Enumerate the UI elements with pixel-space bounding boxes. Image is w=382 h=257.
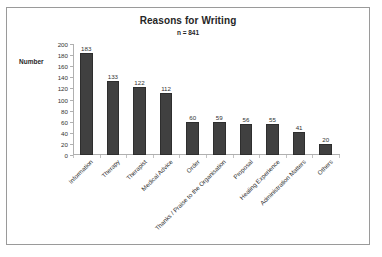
y-axis-tick-label: 120 <box>58 85 68 92</box>
x-axis-category-label-text: Others <box>316 158 334 176</box>
bar-value-label: 56 <box>242 116 249 123</box>
y-axis-tick-mark <box>70 66 73 67</box>
y-axis-tick-label: 160 <box>58 63 68 70</box>
chart-title: Reasons for Writing <box>7 15 369 26</box>
bar[interactable] <box>213 122 226 155</box>
bar-group[interactable]: 183 <box>80 44 93 155</box>
y-axis-tick-mark <box>70 77 73 78</box>
y-axis-tick-mark <box>70 55 73 56</box>
x-axis-category-label-text: Administration Matters <box>259 158 307 206</box>
bar-group[interactable]: 122 <box>133 44 146 155</box>
y-axis-tick-label: 20 <box>61 140 68 147</box>
chart-frame: Reasons for Writing n = 841 Number 20018… <box>6 7 370 245</box>
bar-group[interactable]: 59 <box>213 44 226 155</box>
y-axis-tick-label: 100 <box>58 96 68 103</box>
bar-value-label: 60 <box>189 114 196 121</box>
bar-value-label: 133 <box>108 73 118 80</box>
y-axis-tick-mark <box>70 100 73 101</box>
bar-value-label: 112 <box>161 85 171 92</box>
x-axis-category-label-text: Proposal <box>232 158 254 180</box>
y-axis-tick-mark <box>70 44 73 45</box>
bar-value-label: 59 <box>216 114 223 121</box>
y-axis-tick-label: 140 <box>58 74 68 81</box>
bar-value-label: 41 <box>296 124 303 131</box>
y-axis-tick-mark <box>70 133 73 134</box>
y-axis-tick-label: 0 <box>65 152 68 159</box>
y-axis-tick-label: 60 <box>61 118 68 125</box>
bar-group[interactable]: 112 <box>160 44 173 155</box>
bar-value-label: 122 <box>134 79 144 86</box>
y-axis-tick-mark <box>70 122 73 123</box>
x-axis-category-label-text: Order <box>184 158 200 174</box>
bar-value-label: 183 <box>81 45 91 52</box>
y-axis-tick-label: 40 <box>61 129 68 136</box>
y-axis-tick-mark <box>70 111 73 112</box>
bar[interactable] <box>80 53 93 155</box>
y-axis-tick-mark <box>70 144 73 145</box>
x-axis-tick-mark <box>73 155 74 158</box>
bar-group[interactable]: 55 <box>266 44 279 155</box>
chart-subtitle: n = 841 <box>7 29 369 36</box>
y-axis-tick-label: 200 <box>58 41 68 48</box>
y-axis-title: Number <box>19 58 44 65</box>
x-axis-category-label-text: Therapy <box>100 158 121 179</box>
y-axis-tick-mark <box>70 88 73 89</box>
x-axis-category-label-text: Therapist <box>124 158 147 181</box>
bar[interactable] <box>266 124 279 155</box>
y-axis-tick-label: 80 <box>61 107 68 114</box>
x-axis-category-label-text: Information <box>67 158 94 185</box>
y-axis-tick-label: 180 <box>58 52 68 59</box>
